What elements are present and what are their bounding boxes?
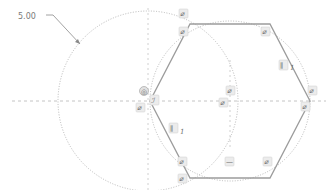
parallel-index: 1 xyxy=(180,128,184,136)
sketch-canvas[interactable]: 5.00 ⌀ ⌀ ⌀ ∥ 1 ⌀ ⌀ ⌀ ⌀ ◎ ℐ xyxy=(0,0,326,190)
parallel-icon: ∥ xyxy=(170,125,173,133)
constraint-coincident-top-left-a[interactable]: ⌀ xyxy=(179,9,188,18)
horizontal-icon: — xyxy=(226,158,233,166)
constraint-coincident-center-a[interactable]: ⌀ xyxy=(226,86,235,95)
constraint-fix-left[interactable]: ◎ xyxy=(140,87,149,97)
constraint-tangent-left[interactable]: ℐ xyxy=(150,95,159,105)
constraint-coincident-top-left-b[interactable]: ⌀ xyxy=(179,27,188,36)
fix-icon: ◎ xyxy=(141,88,147,96)
constraint-coincident-top-right[interactable]: ⌀ xyxy=(261,27,270,36)
parallel-icon: ∥ xyxy=(280,62,283,70)
constraint-coincident-bottom-left-a[interactable]: ⌀ xyxy=(178,157,187,166)
constraint-coincident-bottom-right[interactable]: ⌀ xyxy=(263,157,272,166)
constraint-parallel-right[interactable]: ∥ 1 xyxy=(279,60,294,72)
constraint-coincident-center-b[interactable]: ⌀ xyxy=(219,98,228,107)
parallel-index: 1 xyxy=(290,64,294,72)
dimension-leader xyxy=(46,15,80,44)
constraint-coincident-bottom-left-b[interactable]: ⌀ xyxy=(178,174,187,183)
constraint-coincident-right-b[interactable]: ⌀ xyxy=(301,102,310,111)
constraint-parallel-left[interactable]: ∥ 1 xyxy=(169,123,184,136)
constraint-coincident-left[interactable]: ⌀ xyxy=(136,103,145,112)
constraint-horizontal-bottom[interactable]: — xyxy=(225,157,234,166)
dimension-label[interactable]: 5.00 xyxy=(18,12,36,21)
constraint-coincident-right-a[interactable]: ⌀ xyxy=(308,86,317,95)
